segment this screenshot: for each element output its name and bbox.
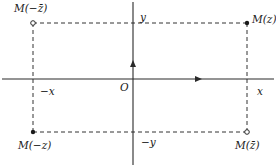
label-m-conj-z: M(z̄) <box>235 140 259 151</box>
point-m-z <box>245 21 249 25</box>
label-m-neg-conj-z: M(−z̄) <box>14 3 47 14</box>
y-positive-label: y <box>140 12 146 23</box>
label-m-z: M(z) <box>252 14 276 25</box>
label-m-neg-z: M(−z) <box>18 140 51 151</box>
y-arrow-icon <box>130 60 136 67</box>
y-negative-label: −y <box>141 137 156 148</box>
x-negative-label: −x <box>40 86 55 97</box>
origin-label: O <box>120 82 129 93</box>
x-positive-label: x <box>257 86 263 97</box>
point-m-conj-z <box>245 130 250 135</box>
point-m-neg-conj-z <box>31 21 36 26</box>
x-arrow-icon <box>195 76 202 82</box>
complex-plane-diagram: M(−z̄) M(z) M(−z) M(z̄) O y −y x −x <box>0 0 276 167</box>
point-m-neg-z <box>31 130 35 134</box>
dashed-rectangle <box>33 23 247 132</box>
